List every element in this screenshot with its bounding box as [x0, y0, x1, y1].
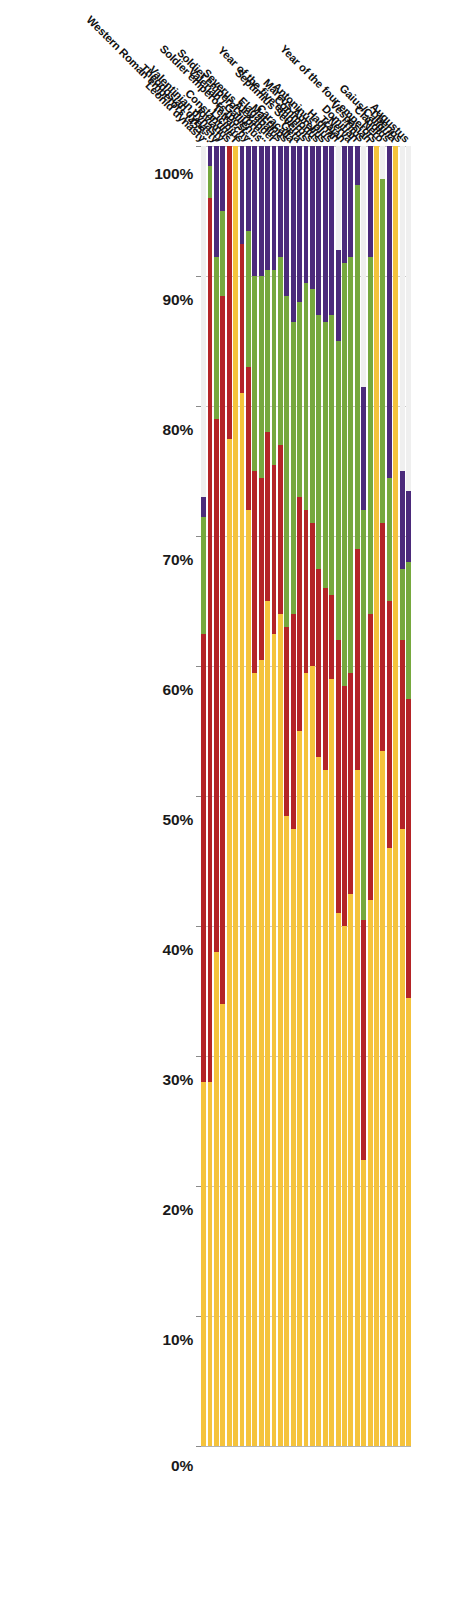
bar-segment[interactable]	[368, 146, 373, 257]
bar-row[interactable]	[374, 146, 379, 1446]
bar-segment[interactable]	[361, 510, 366, 920]
bar-segment[interactable]	[368, 614, 373, 900]
bar-segment[interactable]	[406, 146, 411, 491]
bar-segment[interactable]	[246, 146, 251, 231]
bar-segment[interactable]	[246, 231, 251, 368]
bar-segment[interactable]	[291, 829, 296, 1447]
bar-segment[interactable]	[348, 146, 353, 257]
bar-segment[interactable]	[278, 257, 283, 446]
bar-segment[interactable]	[227, 146, 232, 439]
bar-segment[interactable]	[400, 569, 405, 641]
bar-row[interactable]	[220, 146, 225, 1446]
bar-segment[interactable]	[310, 666, 315, 1446]
bar-segment[interactable]	[214, 146, 219, 257]
bar-row[interactable]	[291, 146, 296, 1446]
bar-segment[interactable]	[220, 296, 225, 1005]
bar-segment[interactable]	[284, 296, 289, 628]
bar-row[interactable]	[284, 146, 289, 1446]
bar-segment[interactable]	[284, 146, 289, 296]
bar-segment[interactable]	[323, 146, 328, 322]
bar-row[interactable]	[387, 146, 392, 1446]
bar-segment[interactable]	[361, 1160, 366, 1446]
bar-segment[interactable]	[284, 627, 289, 816]
bar-row[interactable]	[272, 146, 277, 1446]
bar-segment[interactable]	[265, 432, 270, 601]
bar-segment[interactable]	[323, 770, 328, 1446]
bar-segment[interactable]	[201, 517, 206, 634]
bar-segment[interactable]	[297, 302, 302, 497]
bar-segment[interactable]	[291, 146, 296, 322]
bar-segment[interactable]	[265, 146, 270, 270]
bar-segment[interactable]	[272, 146, 277, 270]
bar-segment[interactable]	[387, 848, 392, 1446]
bar-row[interactable]	[342, 146, 347, 1446]
bar-segment[interactable]	[316, 569, 321, 758]
bar-row[interactable]	[278, 146, 283, 1446]
bar-row[interactable]	[406, 146, 411, 1446]
bar-segment[interactable]	[329, 595, 334, 680]
bar-segment[interactable]	[342, 926, 347, 1446]
bar-segment[interactable]	[355, 549, 360, 770]
bar-segment[interactable]	[265, 601, 270, 1446]
bar-segment[interactable]	[233, 146, 238, 1446]
bar-row[interactable]	[380, 146, 385, 1446]
bar-row[interactable]	[310, 146, 315, 1446]
bar-segment[interactable]	[297, 497, 302, 731]
bar-segment[interactable]	[214, 419, 219, 952]
bar-segment[interactable]	[291, 614, 296, 829]
bar-segment[interactable]	[380, 179, 385, 524]
bar-segment[interactable]	[336, 640, 341, 913]
bar-segment[interactable]	[387, 478, 392, 602]
bar-row[interactable]	[348, 146, 353, 1446]
bar-row[interactable]	[208, 146, 213, 1446]
bar-segment[interactable]	[310, 289, 315, 523]
bar-segment[interactable]	[252, 471, 257, 673]
bar-segment[interactable]	[208, 198, 213, 1082]
bar-segment[interactable]	[380, 523, 385, 751]
bar-segment[interactable]	[252, 276, 257, 471]
bar-segment[interactable]	[348, 257, 353, 673]
bar-segment[interactable]	[336, 341, 341, 640]
bar-segment[interactable]	[259, 660, 264, 1447]
bar-segment[interactable]	[252, 146, 257, 276]
bar-segment[interactable]	[361, 387, 366, 511]
bar-segment[interactable]	[246, 367, 251, 510]
bar-segment[interactable]	[310, 146, 315, 289]
bar-segment[interactable]	[201, 634, 206, 1083]
bar-segment[interactable]	[368, 257, 373, 615]
bar-segment[interactable]	[387, 146, 392, 478]
bar-segment[interactable]	[297, 731, 302, 1446]
bar-segment[interactable]	[252, 673, 257, 1447]
bar-segment[interactable]	[406, 699, 411, 998]
bar-row[interactable]	[297, 146, 302, 1446]
bar-segment[interactable]	[272, 465, 277, 634]
bar-segment[interactable]	[240, 244, 245, 394]
bar-row[interactable]	[336, 146, 341, 1446]
bar-segment[interactable]	[208, 1082, 213, 1446]
bar-segment[interactable]	[297, 146, 302, 302]
bar-segment[interactable]	[316, 315, 321, 569]
bar-segment[interactable]	[214, 952, 219, 1446]
bar-segment[interactable]	[380, 146, 385, 179]
bar-segment[interactable]	[278, 146, 283, 257]
bar-segment[interactable]	[400, 640, 405, 829]
bar-segment[interactable]	[220, 1004, 225, 1446]
bar-segment[interactable]	[355, 146, 360, 185]
bar-segment[interactable]	[380, 751, 385, 1447]
bar-segment[interactable]	[323, 322, 328, 589]
bar-segment[interactable]	[259, 478, 264, 660]
bar-segment[interactable]	[304, 146, 309, 283]
bar-segment[interactable]	[329, 679, 334, 1446]
bar-row[interactable]	[323, 146, 328, 1446]
bar-segment[interactable]	[240, 146, 245, 244]
bar-segment[interactable]	[400, 829, 405, 1447]
bar-segment[interactable]	[208, 146, 213, 166]
bar-segment[interactable]	[393, 146, 398, 1446]
bar-row[interactable]	[316, 146, 321, 1446]
bar-row[interactable]	[368, 146, 373, 1446]
bar-row[interactable]	[355, 146, 360, 1446]
bar-segment[interactable]	[361, 146, 366, 387]
bar-row[interactable]	[361, 146, 366, 1446]
bar-segment[interactable]	[272, 270, 277, 465]
bar-segment[interactable]	[208, 166, 213, 199]
